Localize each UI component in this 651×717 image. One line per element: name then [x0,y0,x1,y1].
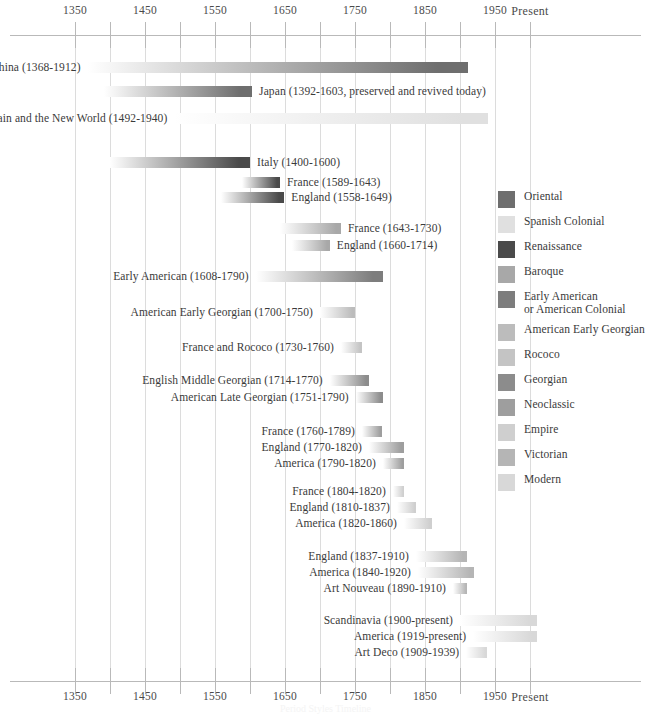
axis-label-1950-bottom: 1950 [483,690,507,702]
legend-label: Spanish Colonial [524,215,648,228]
axis-line-bottom [10,681,641,682]
timeline-bar[interactable] [453,583,467,594]
axis-label-1750-bottom: 1750 [343,690,367,702]
timeline-bar-label: England (1770-1820) [261,440,362,455]
timeline-bar-label: American Early Georgian (1700-1750) [131,305,313,320]
timeline-bar-label: France (1760-1789) [262,424,355,439]
timeline-bar[interactable] [88,62,469,73]
timeline-row[interactable]: America (1840-1920) [0,565,651,580]
axis-tick-bottom-1800 [390,668,391,694]
axis-label-1450-bottom: 1450 [133,690,157,702]
timeline-bar[interactable] [242,177,280,188]
legend-label: American Early Georgian [524,323,648,336]
legend-item[interactable]: Modern [498,473,648,491]
legend-item[interactable]: Spanish Colonial [498,215,648,233]
timeline-bar[interactable] [221,192,285,203]
timeline-bar[interactable] [330,375,369,386]
timeline-bar[interactable] [418,567,474,578]
timeline-row[interactable]: America (1919-present) [0,629,651,644]
timeline-bar[interactable] [460,615,537,626]
legend-swatch-icon [498,399,515,416]
axis-label-1550-bottom: 1550 [203,690,227,702]
timeline-bar-label: Japan (1392-1603, preserved and revived … [259,84,486,99]
legend-swatch-icon [498,324,515,341]
axis-tick-bottom-1400 [110,668,111,694]
timeline-bar[interactable] [356,392,383,403]
timeline-row[interactable]: Spain and the New World (1492-1940) [0,111,651,126]
timeline-bar[interactable] [280,223,341,234]
timeline-bar[interactable] [292,240,330,251]
legend-label: Oriental [524,190,648,203]
axis-line-top [10,35,641,36]
timeline-bar[interactable] [404,518,432,529]
timeline-row[interactable]: Scandinavia (1900-present) [0,613,651,628]
timeline-row[interactable]: Japan (1392-1603, preserved and revived … [0,84,651,99]
axis-label-present-top: Present [511,4,548,19]
axis-tick-1700 [320,22,321,48]
axis-label-1350-bottom: 1350 [63,690,87,702]
legend-item[interactable]: Georgian [498,373,648,391]
timeline-bar[interactable] [362,426,382,437]
legend-item[interactable]: Renaissance [498,240,648,258]
legend-item[interactable]: Victorian [498,448,648,466]
timeline-row[interactable]: Italy (1400-1600) [0,155,651,170]
timeline-bar[interactable] [110,157,250,168]
timeline-bar-label: England (1810-1837) [289,500,390,515]
timeline-bar-label: France and Rococo (1730-1760) [182,340,334,355]
legend-item[interactable]: Rococo [498,348,648,366]
timeline-bar-label: America (1820-1860) [295,516,397,531]
axis-tick-1450 [145,22,146,48]
timeline-bar[interactable] [466,647,487,658]
timeline-row[interactable]: America (1820-1860) [0,516,651,531]
legend-swatch-icon [498,449,515,466]
timeline-bar[interactable] [320,307,355,318]
legend-item[interactable]: Empire [498,423,648,441]
timeline-bar[interactable] [393,486,404,497]
timeline-bar[interactable] [416,551,467,562]
legend-label: Georgian [524,373,648,386]
legend-item[interactable]: Baroque [498,265,648,283]
chart-footnote: Period Styles Timeline [0,703,651,714]
timeline-row[interactable]: China (1368-1912) [0,60,651,75]
timeline-bar-label: England (1660-1714) [337,238,438,253]
axis-tick-bottom-1900 [460,668,461,694]
axis-label-1850-top: 1850 [413,4,437,16]
axis-tick-1600 [250,22,251,48]
timeline-bar-label: America (1840-1920) [309,565,411,580]
timeline-bar[interactable] [369,442,404,453]
timeline-bar[interactable] [383,458,404,469]
legend-label: Renaissance [524,240,648,253]
timeline-bar-label: France (1643-1730) [348,221,441,236]
timeline-bar-label: America (1919-present) [354,629,466,644]
timeline-row[interactable]: France (1589-1643) [0,175,651,190]
timeline-row[interactable]: Art Deco (1909-1939) [0,645,651,660]
axis-label-1350-top: 1350 [63,4,87,16]
timeline-row[interactable]: Art Nouveau (1890-1910) [0,581,651,596]
timeline-bar-label: Scandinavia (1900-present) [324,613,453,628]
timeline-bar[interactable] [473,631,537,642]
timeline-bar[interactable] [174,113,488,124]
timeline-bar-label: England (1558-1649) [291,190,392,205]
timeline-row[interactable]: England (1810-1837) [0,500,651,515]
axis-label-1850-bottom: 1850 [413,690,437,702]
timeline-bar[interactable] [341,342,362,353]
timeline-bar[interactable] [104,86,252,97]
axis-label-1650-top: 1650 [273,4,297,16]
legend-swatch-icon [498,216,515,233]
legend-label: Neoclassic [524,398,648,411]
legend-item[interactable]: Oriental [498,190,648,208]
axis-tick-1950 [495,22,496,48]
timeline-row[interactable]: England (1837-1910) [0,549,651,564]
axis-tick-1650 [285,22,286,48]
legend-item[interactable]: Neoclassic [498,398,648,416]
legend-item[interactable]: American Early Georgian [498,323,648,341]
timeline-bar-label: English Middle Georgian (1714-1770) [142,373,323,388]
timeline-bar[interactable] [397,502,416,513]
legend-item[interactable]: Early Americanor American Colonial [498,290,648,316]
timeline-bar[interactable] [256,271,383,282]
legend-swatch-icon [498,191,515,208]
axis-tick-bottom-1700 [320,668,321,694]
timeline-bar-label: Spain and the New World (1492-1940) [0,111,167,126]
axis-tick-1850 [425,22,426,48]
timeline-bar-label: England (1837-1910) [308,549,409,564]
